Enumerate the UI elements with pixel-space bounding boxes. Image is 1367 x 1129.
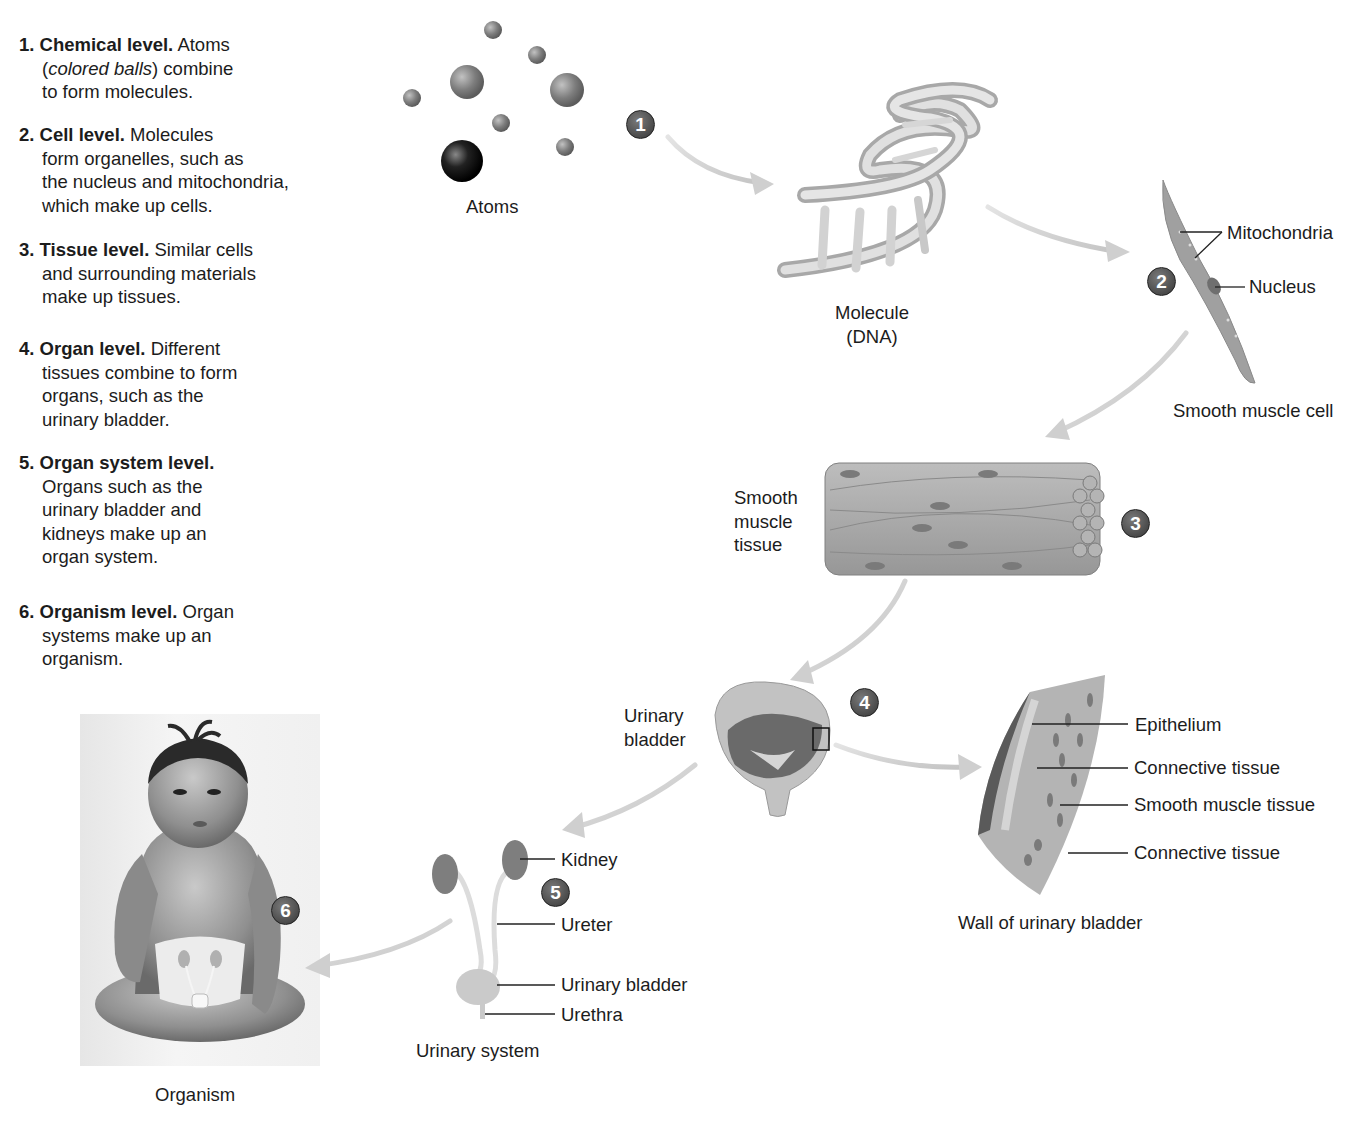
step-badge-5: 5 <box>541 878 570 907</box>
urinary-system-illustration <box>432 840 528 1019</box>
arrow-organ-to-wall <box>836 745 970 767</box>
bladder-wall-illustration <box>978 675 1105 895</box>
urinary-bladder-organ-illustration <box>715 682 830 817</box>
step-badge-6: 6 <box>271 896 300 925</box>
smooth-muscle-cell-label: Smooth muscle cell <box>1173 399 1333 423</box>
arrow-atoms-to-molecule <box>668 137 762 183</box>
smooth-muscle-tissue-label: Smooth muscle tissue <box>734 486 798 557</box>
dna-illustration <box>785 90 990 270</box>
arrow-system-to-organism <box>315 921 450 966</box>
arrow-cell-to-tissue <box>1055 333 1186 433</box>
nucleus-callout: Nucleus <box>1249 275 1316 299</box>
step-badge-3: 3 <box>1121 509 1150 538</box>
kidney-callout: Kidney <box>561 848 618 872</box>
smooth-muscle-tissue-callout: Smooth muscle tissue <box>1134 793 1315 817</box>
molecule-label: Molecule (DNA) <box>822 301 922 348</box>
illustration-layer <box>0 0 1367 1129</box>
arrow-molecule-to-cell <box>988 207 1120 252</box>
wall-of-urinary-bladder-label: Wall of urinary bladder <box>958 911 1142 935</box>
urinary-system-label: Urinary system <box>416 1039 539 1063</box>
step-badge-4: 4 <box>850 688 879 717</box>
connective-tissue-callout-1: Connective tissue <box>1134 756 1280 780</box>
urinary-bladder-organ-label: Urinary bladder <box>624 704 686 751</box>
step-badge-2: 2 <box>1147 267 1176 296</box>
step-badge-1: 1 <box>626 110 655 139</box>
arrow-tissue-to-organ <box>800 581 905 675</box>
arrow-organ-to-system <box>572 765 695 828</box>
organism-label: Organism <box>155 1083 235 1107</box>
urinary-bladder-callout: Urinary bladder <box>561 973 687 997</box>
urethra-callout: Urethra <box>561 1003 623 1027</box>
atoms-illustration <box>403 21 584 182</box>
leader-lines <box>485 232 1245 1014</box>
mitochondria-callout: Mitochondria <box>1227 221 1333 245</box>
smooth-muscle-cell-illustration <box>1163 180 1255 383</box>
smooth-muscle-tissue-illustration <box>825 463 1104 575</box>
ureter-callout: Ureter <box>561 913 612 937</box>
connective-tissue-callout-2: Connective tissue <box>1134 841 1280 865</box>
epithelium-callout: Epithelium <box>1135 713 1221 737</box>
atoms-label: Atoms <box>466 195 518 219</box>
